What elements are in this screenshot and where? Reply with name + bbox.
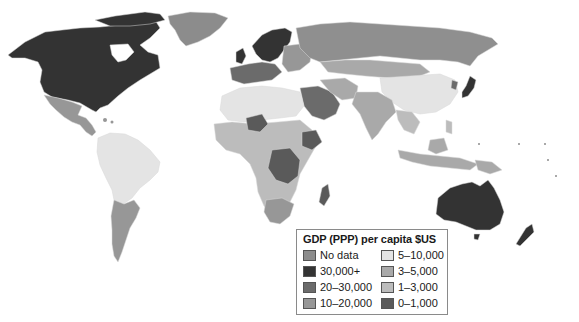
region-greenland xyxy=(168,12,228,46)
legend-item-0-1000: 0–1,000 xyxy=(381,296,449,310)
region-tasmania xyxy=(474,234,480,240)
region-south-america-north xyxy=(97,133,160,205)
region-pacific-island xyxy=(544,143,546,145)
region-pacific-island xyxy=(518,143,520,145)
region-north-america xyxy=(8,20,160,112)
legend-swatch xyxy=(303,298,316,309)
legend-label: No data xyxy=(320,249,359,261)
region-southern-africa xyxy=(264,198,294,224)
region-japan xyxy=(462,76,476,98)
legend-swatch xyxy=(303,266,316,277)
legend-item-10-20000: 10–20,000 xyxy=(303,296,381,310)
legend-item-no-data: No data xyxy=(303,248,381,262)
world-map xyxy=(0,0,579,322)
region-sub-saharan-africa xyxy=(214,120,316,214)
legend-label: 20–30,000 xyxy=(320,281,372,293)
region-new-zealand xyxy=(516,224,534,246)
legend-label: 10–20,000 xyxy=(320,297,372,309)
region-caribbean xyxy=(103,118,107,122)
region-central-asia xyxy=(320,60,430,78)
legend-swatch xyxy=(381,282,394,293)
region-southeast-asia xyxy=(396,110,420,134)
legend-item-5-10000: 5–10,000 xyxy=(381,248,449,262)
legend-label: 30,000+ xyxy=(320,265,360,277)
legend-item-3-5000: 3–5,000 xyxy=(381,264,449,278)
region-ethiopia xyxy=(302,130,322,150)
region-uk xyxy=(236,48,246,64)
region-south-asia xyxy=(352,92,396,140)
legend-swatch xyxy=(381,298,394,309)
region-pacific-island xyxy=(547,159,549,161)
region-borneo xyxy=(428,138,448,154)
region-australia xyxy=(436,180,504,230)
region-pacific-island xyxy=(478,143,480,145)
region-pacific-island xyxy=(555,175,557,177)
region-philippines xyxy=(446,120,452,134)
legend-item-30000-plus: 30,000+ xyxy=(303,264,381,278)
legend-item-20-30000: 20–30,000 xyxy=(303,280,381,294)
legend-swatch xyxy=(381,250,394,261)
legend-title: GDP (PPP) per capita $US xyxy=(303,233,442,245)
region-south-america-south xyxy=(111,200,140,262)
legend-swatch xyxy=(381,266,394,277)
legend-label: 0–1,000 xyxy=(398,297,438,309)
region-new-guinea xyxy=(475,160,502,174)
region-russia xyxy=(296,22,498,66)
legend-swatch xyxy=(303,250,316,261)
legend-items: No data 5–10,000 30,000+ 3–5,000 20–30,0… xyxy=(303,248,442,310)
region-southern-europe xyxy=(230,62,282,84)
legend-item-1-3000: 1–3,000 xyxy=(381,280,449,294)
legend-swatch xyxy=(303,282,316,293)
region-caribbean xyxy=(111,121,114,124)
map-legend: GDP (PPP) per capita $US No data 5–10,00… xyxy=(296,229,448,315)
legend-label: 5–10,000 xyxy=(398,249,444,261)
legend-label: 3–5,000 xyxy=(398,265,438,277)
legend-label: 1–3,000 xyxy=(398,281,438,293)
region-madagascar xyxy=(319,184,330,206)
